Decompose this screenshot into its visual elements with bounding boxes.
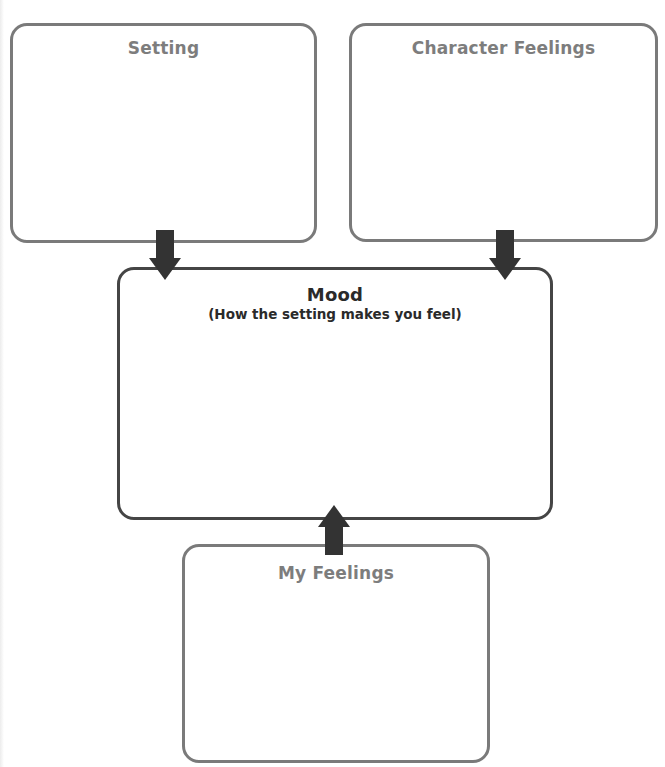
mood-title: Mood — [120, 284, 550, 305]
character-feelings-box[interactable]: Character Feelings — [349, 23, 658, 242]
arrow-up-icon — [318, 505, 350, 557]
mood-box[interactable]: Mood (How the setting makes you feel) — [117, 267, 553, 520]
my-feelings-box[interactable]: My Feelings — [182, 544, 490, 763]
arrow-head — [318, 505, 350, 527]
arrow-shaft — [156, 230, 174, 260]
arrow-head — [149, 258, 181, 280]
arrow-shaft — [496, 230, 514, 260]
setting-title: Setting — [13, 38, 314, 58]
arrow-shaft — [325, 525, 343, 555]
page-edge-shadow — [0, 0, 4, 767]
setting-box[interactable]: Setting — [10, 23, 317, 243]
arrow-head — [489, 258, 521, 280]
mood-subtitle: (How the setting makes you feel) — [120, 306, 550, 322]
character-feelings-title: Character Feelings — [352, 38, 655, 58]
arrow-down-icon — [489, 230, 521, 282]
arrow-down-icon — [149, 230, 181, 282]
my-feelings-title: My Feelings — [185, 563, 487, 583]
